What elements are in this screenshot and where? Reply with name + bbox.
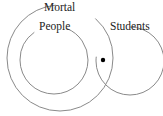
euler-diagram: Mortal People Students: [0, 0, 163, 116]
people-label: People: [39, 20, 70, 33]
students-label: Students: [110, 20, 150, 32]
students-set-circle: [96, 27, 163, 95]
element-point: [101, 58, 105, 62]
people-set-circle: [20, 26, 88, 94]
mortal-label: Mortal: [44, 1, 75, 13]
